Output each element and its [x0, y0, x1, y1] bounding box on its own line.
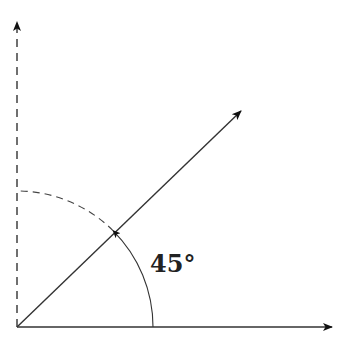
angle-diagram: 45° [0, 0, 337, 338]
angle-label: 45° [150, 249, 195, 278]
reference-arc [17, 191, 113, 231]
angle-arc [113, 231, 153, 327]
diagonal-ray-arrow [17, 111, 241, 327]
